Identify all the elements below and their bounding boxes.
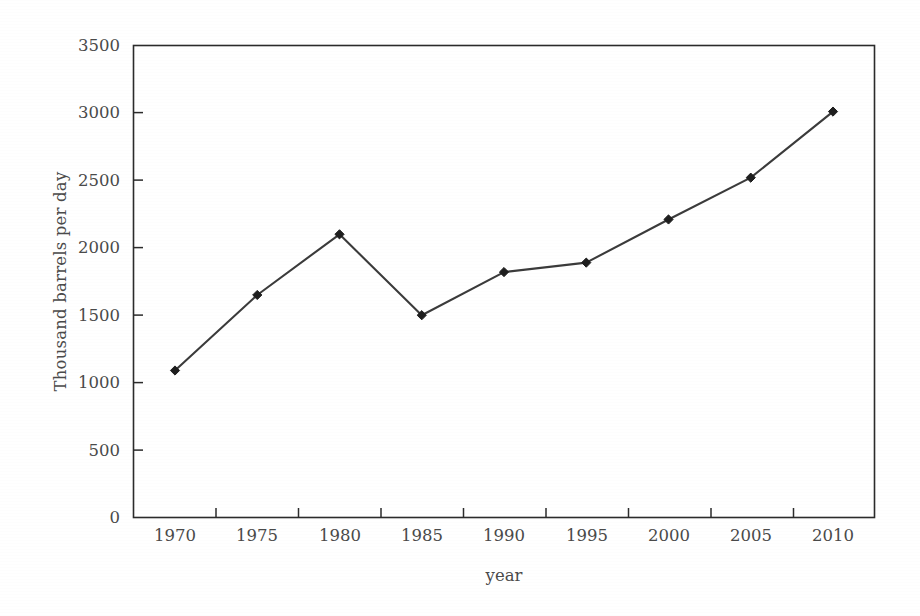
data-point-markers bbox=[170, 107, 837, 375]
plot-frame bbox=[134, 46, 875, 518]
data-point-marker bbox=[582, 258, 591, 267]
data-point-marker bbox=[664, 215, 673, 224]
chart-figure: Thousand barrels per day 3500 3000 2500 … bbox=[0, 0, 920, 616]
data-point-marker bbox=[499, 267, 508, 276]
plot-area bbox=[0, 0, 920, 616]
x-axis-ticks bbox=[216, 508, 794, 518]
y-axis-ticks bbox=[134, 113, 144, 451]
data-series-line bbox=[175, 112, 833, 371]
